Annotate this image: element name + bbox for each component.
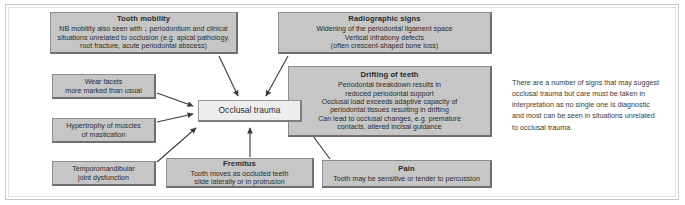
node-radiographic-signs[interactable]: Radiographic signs Widening of the perio… bbox=[278, 12, 492, 54]
node-radiographic-signs-line-3: (often crescent-shaped bone loss) bbox=[331, 42, 438, 50]
node-drifting-line-3: Occlusal load exceeds adaptive capacity … bbox=[322, 98, 458, 106]
node-wear-facets-line-1: Wear facets bbox=[85, 78, 123, 86]
node-drifting-line-2: reduced periodontal support bbox=[345, 90, 433, 98]
node-wear-facets[interactable]: Wear facets more marked than usual bbox=[52, 74, 156, 99]
node-wear-facets-line-2: more marked than usual bbox=[65, 87, 142, 95]
sidenote-line-4: and most can be seen in situations unrel… bbox=[512, 110, 674, 121]
sidenote-line-1: There are a number of signs that may sug… bbox=[512, 77, 674, 88]
node-fremitus-title: Fremitus bbox=[223, 160, 256, 169]
node-temporomandibular-joint-dysfunction[interactable]: Temporomandibular joint dysfunction bbox=[52, 161, 156, 186]
node-tooth-mobility-line-2: situations unrelated to occlusion (e.g. … bbox=[58, 34, 230, 42]
sidenote-line-2: occlusal trauma but care must be taken i… bbox=[512, 88, 674, 99]
node-pain-line-1: Tooth may be sensitive or tender to perc… bbox=[333, 175, 480, 183]
node-drifting-line-5: Can lead to occlusal changes, e.g. prema… bbox=[318, 115, 461, 123]
node-drifting-line-6: contacts, altered incisal guidance bbox=[337, 123, 442, 131]
node-fremitus[interactable]: Fremitus Tooth moves as occluded teeth s… bbox=[166, 158, 314, 188]
node-drifting-line-4: periodontal tissues resulting in driftin… bbox=[330, 106, 449, 114]
arrow-tooth-mobility-to-centre bbox=[219, 56, 238, 96]
node-radiographic-signs-line-1: Widening of the periodontal ligament spa… bbox=[316, 25, 452, 33]
node-pain[interactable]: Pain Tooth may be sensitive or tender to… bbox=[322, 160, 492, 188]
node-hypertrophy-line-2: of mastication bbox=[82, 131, 126, 139]
node-drifting-of-teeth-title: Drifting of teeth bbox=[360, 71, 418, 80]
node-radiographic-signs-title: Radiographic signs bbox=[348, 15, 420, 24]
node-pain-title: Pain bbox=[398, 165, 414, 174]
node-hypertrophy-line-1: Hypertrophy of muscles bbox=[66, 122, 141, 130]
node-tmj-line-2: joint dysfunction bbox=[78, 174, 129, 182]
node-hypertrophy-of-muscles[interactable]: Hypertrophy of muscles of mastication bbox=[52, 118, 156, 143]
node-drifting-line-1: Periodontal breakdown results in bbox=[338, 81, 441, 89]
arrow-hypertrophy-to-centre bbox=[157, 114, 193, 122]
node-radiographic-signs-line-2: Vertical infrabony defects bbox=[345, 34, 424, 42]
sidenote-text-block: There are a number of signs that may sug… bbox=[512, 77, 674, 133]
sidenote-line-5: to occlusal trauma. bbox=[512, 122, 674, 133]
node-occlusal-trauma-label: Occlusal trauma bbox=[218, 106, 280, 116]
diagram-canvas: Tooth mobility NB mobility also seen wit… bbox=[0, 0, 685, 205]
node-tooth-mobility[interactable]: Tooth mobility NB mobility also seen wit… bbox=[50, 12, 238, 54]
node-tooth-mobility-line-3: root fracture, acute periodontal abscess… bbox=[80, 42, 207, 50]
node-tooth-mobility-title: Tooth mobility bbox=[117, 15, 170, 24]
node-tmj-line-1: Temporomandibular bbox=[72, 165, 135, 173]
node-fremitus-line-2: slide laterally or in protrusion bbox=[194, 178, 284, 186]
arrow-tmj-to-centre bbox=[157, 128, 196, 162]
arrow-wear-facets-to-centre bbox=[157, 93, 193, 106]
arrow-radiographic-to-centre bbox=[266, 56, 288, 96]
node-fremitus-line-1: Tooth moves as occluded teeth bbox=[191, 170, 289, 178]
node-tooth-mobility-line-1: NB mobility also seen with ↓ periodontiu… bbox=[59, 25, 227, 33]
sidenote-line-3: interpretation as no single one is diagn… bbox=[512, 99, 674, 110]
node-drifting-of-teeth[interactable]: Drifting of teeth Periodontal breakdown … bbox=[288, 66, 492, 137]
node-occlusal-trauma[interactable]: Occlusal trauma bbox=[198, 100, 302, 122]
